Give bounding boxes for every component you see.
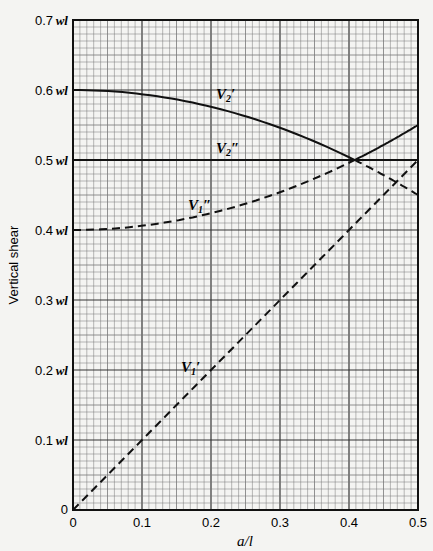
curve-label: V1′ <box>181 359 200 377</box>
y-axis-ticks: 0.1 wl0.2 wl0.3 wl0.4 wl0.5 wl0.6 wl0.7 … <box>35 13 68 448</box>
x-tick-label: 0.1 <box>133 515 151 530</box>
curve-label: V1″ <box>188 197 211 215</box>
y-tick-label: 0.1 wl <box>35 433 68 448</box>
x-axis-ticks: 00.10.20.30.40.5 <box>69 515 427 530</box>
x-tick-label: 0.2 <box>202 515 220 530</box>
x-tick-label: 0 <box>69 515 76 530</box>
curve-label: V2′ <box>216 86 235 104</box>
curve-label: V2″ <box>216 140 239 158</box>
shear-chart: 0.1 wl0.2 wl0.3 wl0.4 wl0.5 wl0.6 wl0.7 … <box>0 0 433 551</box>
curve-labels: V2′V2″V1″V1′ <box>181 86 239 377</box>
y-tick-label: 0.3 wl <box>35 293 68 308</box>
origin-label: 0 <box>61 502 68 517</box>
x-tick-label: 0.5 <box>409 515 427 530</box>
y-tick-label: 0.4 wl <box>35 223 68 238</box>
y-tick-label: 0.6 wl <box>35 83 68 98</box>
y-axis-label: Vertical shear <box>6 225 21 304</box>
x-axis-label: a/l <box>237 533 253 549</box>
x-tick-label: 0.4 <box>340 515 358 530</box>
x-tick-label: 0.3 <box>271 515 289 530</box>
grid <box>73 20 418 510</box>
y-tick-label: 0.5 wl <box>35 153 68 168</box>
y-tick-label: 0.7 wl <box>35 13 68 28</box>
y-tick-label: 0.2 wl <box>35 363 68 378</box>
